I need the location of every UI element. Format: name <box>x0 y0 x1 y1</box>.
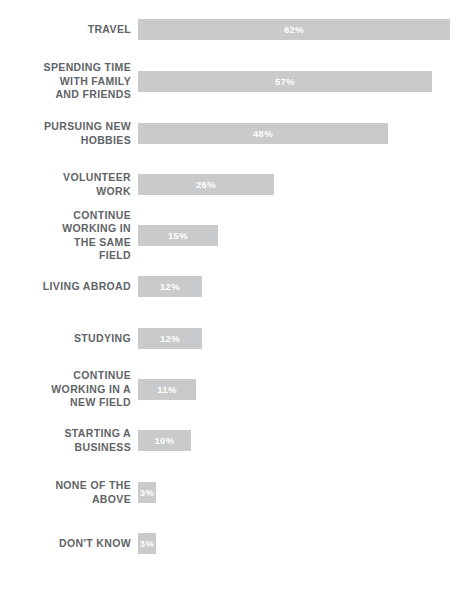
bar[interactable]: 3% <box>138 482 156 503</box>
bar-track: 57% <box>138 71 476 92</box>
bar-track: 15% <box>138 225 476 246</box>
bar[interactable]: 11% <box>138 379 196 400</box>
bar[interactable]: 57% <box>138 71 432 92</box>
bar-category-label: LIVING ABROAD <box>0 280 131 294</box>
bar-row: TRAVEL62% <box>0 19 476 40</box>
bar-row: VOLUNTEER WORK26% <box>0 174 476 195</box>
bar-value-label: 12% <box>160 333 180 344</box>
bar-category-label: STARTING A BUSINESS <box>0 427 131 454</box>
bar-value-label: 11% <box>157 384 176 395</box>
bar-category-label: STUDYING <box>0 332 131 346</box>
bar-value-label: 57% <box>275 76 295 87</box>
bar-category-label: TRAVEL <box>0 23 131 37</box>
bar-row: CONTINUE WORKING IN THE SAME FIELD15% <box>0 225 476 246</box>
bar-row: LIVING ABROAD12% <box>0 276 476 297</box>
bar[interactable]: 48% <box>138 123 388 144</box>
bar[interactable]: 12% <box>138 328 202 349</box>
bar-category-label: SPENDING TIME WITH FAMILY AND FRIENDS <box>0 61 131 102</box>
bar-value-label: 26% <box>196 179 216 190</box>
bar-chart: TRAVEL62%SPENDING TIME WITH FAMILY AND F… <box>0 0 476 593</box>
bar-value-label: 12% <box>160 281 180 292</box>
bar[interactable]: 26% <box>138 174 274 195</box>
bar-row: CONTINUE WORKING IN A NEW FIELD11% <box>0 379 476 400</box>
bar-value-label: 3% <box>140 487 154 498</box>
bar-row: SPENDING TIME WITH FAMILY AND FRIENDS57% <box>0 71 476 92</box>
bar-track: 3% <box>138 482 476 503</box>
bar-category-label: DON'T KNOW <box>0 537 131 551</box>
bar-category-label: NONE OF THE ABOVE <box>0 479 131 506</box>
bar-category-label: CONTINUE WORKING IN THE SAME FIELD <box>0 209 131 263</box>
bar-row: DON'T KNOW3% <box>0 533 476 554</box>
bar-track: 26% <box>138 174 476 195</box>
bar-value-label: 3% <box>140 538 154 549</box>
bar[interactable]: 62% <box>138 19 450 40</box>
bar-value-label: 15% <box>168 230 188 241</box>
bar-track: 3% <box>138 533 476 554</box>
bar-track: 48% <box>138 123 476 144</box>
bar-row: STARTING A BUSINESS10% <box>0 430 476 451</box>
bar-value-label: 48% <box>253 128 273 139</box>
bar-track: 10% <box>138 430 476 451</box>
bar-track: 11% <box>138 379 476 400</box>
bar-value-label: 10% <box>155 435 175 446</box>
bar-rows-container: TRAVEL62%SPENDING TIME WITH FAMILY AND F… <box>0 0 476 593</box>
bar-track: 12% <box>138 276 476 297</box>
bar-category-label: PURSUING NEW HOBBIES <box>0 120 131 147</box>
bar[interactable]: 12% <box>138 276 202 297</box>
bar-track: 62% <box>138 19 476 40</box>
bar-row: PURSUING NEW HOBBIES48% <box>0 123 476 144</box>
bar[interactable]: 3% <box>138 533 156 554</box>
bar[interactable]: 15% <box>138 225 218 246</box>
bar-value-label: 62% <box>284 24 304 35</box>
bar-row: STUDYING12% <box>0 328 476 349</box>
bar-category-label: VOLUNTEER WORK <box>0 171 131 198</box>
bar-track: 12% <box>138 328 476 349</box>
bar[interactable]: 10% <box>138 430 191 451</box>
bar-row: NONE OF THE ABOVE3% <box>0 482 476 503</box>
bar-category-label: CONTINUE WORKING IN A NEW FIELD <box>0 369 131 410</box>
